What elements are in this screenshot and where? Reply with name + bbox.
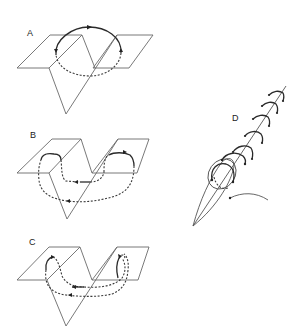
panel-b: B (17, 130, 149, 219)
arrow-icon (119, 48, 123, 52)
panel-d-tail-curve (229, 194, 268, 200)
panel-a: A (17, 25, 153, 114)
panel-b-label: B (30, 130, 36, 140)
diagram-figure: A B (0, 0, 299, 336)
arrow-icon (68, 293, 72, 297)
panel-d: D (193, 86, 286, 226)
arrow-icon (54, 49, 58, 53)
panel-b-planes (17, 139, 149, 219)
panel-b-loops (39, 150, 134, 203)
arrow-icon (66, 199, 70, 203)
panel-d-axis (193, 86, 286, 226)
panel-c: C (17, 237, 149, 326)
panel-a-planes (17, 35, 153, 114)
arrow-icon (87, 25, 92, 30)
panel-c-label: C (29, 237, 36, 247)
arrow-icon (74, 180, 78, 184)
panel-d-label: D (232, 113, 239, 123)
panel-a-label: A (27, 28, 33, 38)
panel-c-paths (46, 254, 129, 297)
